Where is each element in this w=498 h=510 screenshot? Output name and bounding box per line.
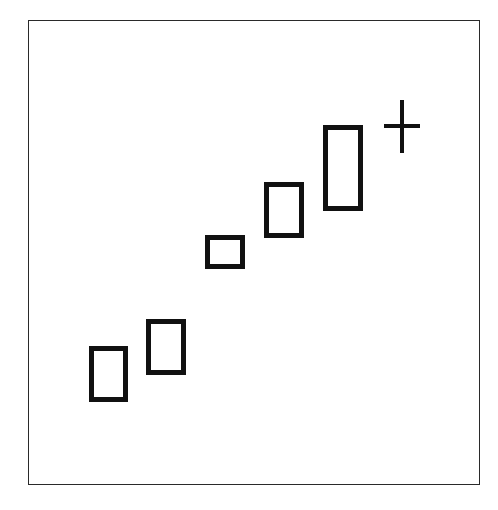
candle-1-body	[92, 349, 126, 400]
candlestick-diagram	[0, 0, 498, 510]
candle-2-body	[149, 322, 184, 373]
candle-5-body	[326, 128, 361, 209]
candle-4-body	[267, 185, 302, 236]
doji-cross	[384, 100, 420, 153]
candle-3-body	[208, 238, 243, 267]
